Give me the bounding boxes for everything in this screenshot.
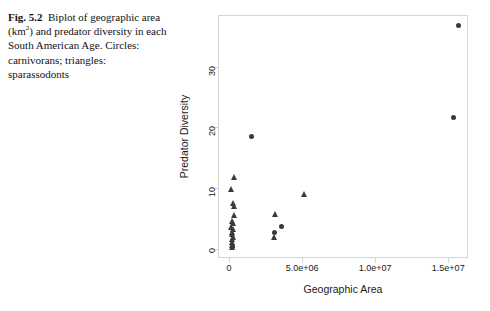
y-axis-tick-label: 10	[207, 187, 217, 197]
data-point-sparassodonts	[228, 186, 234, 192]
x-axis-tick-label: 1.5e+07	[432, 263, 465, 273]
data-point-sparassodonts	[231, 174, 237, 180]
data-point-sparassodonts	[272, 211, 278, 217]
data-point-carnivorans	[249, 134, 254, 139]
plot-area	[218, 15, 468, 258]
x-axis-tick-label: 0	[226, 263, 231, 273]
x-axis-title: Geographic Area	[218, 283, 468, 295]
y-axis-tick-label: 30	[207, 66, 217, 76]
data-point-carnivorans	[451, 115, 456, 120]
x-axis-tick-label: 5.0e+06	[286, 263, 319, 273]
data-point-carnivorans	[456, 23, 461, 28]
scatter-plot-figure: 010203005.0e+061.0e+071.5e+07 Predator D…	[0, 0, 490, 311]
data-point-sparassodonts	[271, 234, 277, 240]
data-point-sparassodonts	[231, 203, 237, 209]
data-points-layer	[219, 16, 467, 257]
data-point-carnivorans	[279, 224, 284, 229]
y-axis-tick-label: 20	[207, 126, 217, 136]
data-point-sparassodonts	[301, 191, 307, 197]
x-axis-tick-label: 1.0e+07	[359, 263, 392, 273]
data-point-sparassodonts	[229, 244, 235, 250]
y-axis-tick-label: 0	[207, 248, 217, 253]
y-axis-title: Predator Diversity	[178, 15, 192, 258]
